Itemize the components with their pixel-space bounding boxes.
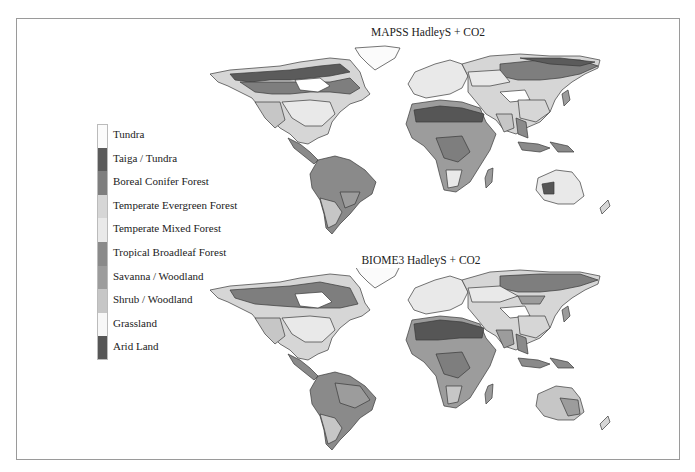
legend-label: Savanna / Woodland bbox=[113, 270, 204, 282]
legend-label: Shrub / Woodland bbox=[113, 293, 193, 305]
legend-swatch bbox=[97, 195, 108, 219]
legend-swatch bbox=[97, 313, 108, 337]
legend-swatch bbox=[97, 171, 108, 195]
world-map-biome3 bbox=[200, 268, 640, 458]
europe bbox=[408, 60, 468, 98]
legend-swatch bbox=[97, 242, 108, 266]
legend-label: Grassland bbox=[113, 317, 157, 329]
legend-label: Tundra bbox=[113, 128, 144, 140]
legend-item-tropical-broadleaf-forest: Tropical Broadleaf Forest bbox=[97, 242, 267, 266]
legend-label: Tropical Broadleaf Forest bbox=[113, 246, 226, 258]
legend-label: Taiga / Tundra bbox=[113, 152, 177, 164]
legend-swatch bbox=[97, 148, 108, 172]
map-title-mapss: MAPSS HadleyS + CO2 bbox=[371, 26, 485, 38]
legend-label: Arid Land bbox=[113, 340, 159, 352]
map-title-biome3: BIOME3 HadleyS + CO2 bbox=[361, 254, 480, 266]
legend-swatch bbox=[97, 266, 108, 290]
legend-swatch bbox=[97, 124, 108, 148]
legend-swatch bbox=[97, 218, 108, 242]
legend-swatch bbox=[97, 289, 108, 313]
legend-label: Boreal Conifer Forest bbox=[113, 175, 209, 187]
legend-swatch bbox=[97, 336, 108, 360]
greenland bbox=[355, 46, 400, 70]
world-map-mapss bbox=[200, 42, 640, 242]
